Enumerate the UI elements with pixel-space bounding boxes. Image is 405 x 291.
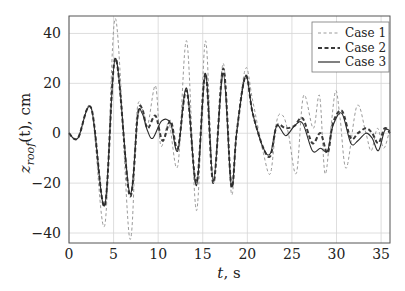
y-tick-label: −20 [31,175,61,191]
x-tick-label: 25 [283,246,301,262]
series-line-case-3 [69,58,390,206]
chart-canvas: 05101520253035 −40−2002040 t, s zroof(t)… [0,0,405,291]
y-tick-label: 40 [43,25,61,41]
x-tick-labels: 05101520253035 [65,246,390,262]
x-tick-label: 20 [238,246,256,262]
y-tick-labels: −40−2002040 [31,25,61,241]
x-tick-label: 15 [194,246,212,262]
x-tick-label: 10 [149,246,167,262]
y-axis-label: zroof(t), cm [16,93,37,174]
x-tick-label: 5 [109,246,118,262]
legend-label-case-2: Case 2 [345,41,386,55]
x-tick-label: 35 [372,246,390,262]
y-tick-label: 20 [43,75,61,91]
legend-label-case-1: Case 1 [345,26,386,40]
x-tick-label: 0 [65,246,74,262]
x-tick-label: 30 [328,246,346,262]
y-tick-label: 0 [52,125,61,141]
y-tick-label: −40 [31,225,61,241]
legend-label-case-3: Case 3 [345,55,386,69]
series-line-case-2 [69,58,390,206]
x-axis-label: t, s [217,264,240,282]
legend: Case 1 Case 2 Case 3 [312,22,389,72]
